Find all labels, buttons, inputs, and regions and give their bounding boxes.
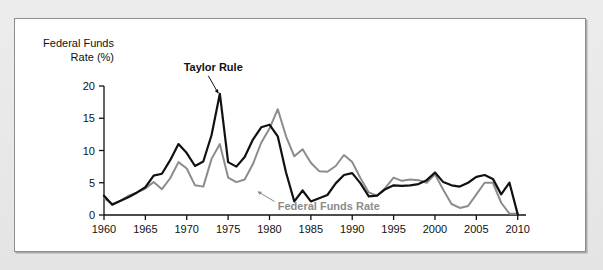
chart-panel: Federal Funds Rate (%) 05101520 19601965… <box>14 18 586 252</box>
y-axis-title-line2: Rate (%) <box>71 51 114 63</box>
x-axis-tick-label: 1975 <box>216 223 240 235</box>
x-axis-tick-label: 1990 <box>340 223 364 235</box>
x-axis-tick-label: 1985 <box>299 223 323 235</box>
x-axis-tick-label: 2000 <box>423 223 447 235</box>
series-line-taylor-rule <box>104 94 518 215</box>
x-axis-tick-label: 1965 <box>133 223 157 235</box>
y-axis-tick-label: 20 <box>83 80 95 92</box>
y-axis-tick-label: 15 <box>83 112 95 124</box>
figure-root: Federal Funds Rate (%) 05101520 19601965… <box>0 0 603 270</box>
y-axis-title-line1: Federal Funds <box>43 37 114 49</box>
y-axis-tick-label: 0 <box>89 209 95 221</box>
chart-series-group <box>104 94 518 215</box>
x-axis-tick-label: 2005 <box>464 223 488 235</box>
annotation-arrow <box>208 76 218 93</box>
x-axis-tick-label: 1980 <box>257 223 281 235</box>
y-axis-tick-label: 5 <box>89 177 95 189</box>
x-axis-tick-label: 2010 <box>505 223 529 235</box>
federal-funds-rate-chart: Federal Funds Rate (%) 05101520 19601965… <box>15 19 585 251</box>
annotation-arrow <box>258 192 275 202</box>
y-axis-title: Federal Funds Rate (%) <box>43 37 114 63</box>
chart-annotations: Taylor RuleFederal Funds Rate <box>184 61 380 212</box>
x-axis-tick-label: 1995 <box>381 223 405 235</box>
series-line-federal-funds-rate <box>104 109 518 213</box>
x-axis: 1960196519701975198019851990199520002005… <box>92 215 530 235</box>
annotation-label-federal-funds-rate: Federal Funds Rate <box>278 200 380 212</box>
x-axis-tick-label: 1960 <box>92 223 116 235</box>
annotation-label-taylor-rule: Taylor Rule <box>184 61 243 73</box>
y-axis-tick-label: 10 <box>83 145 95 157</box>
x-axis-tick-label: 1970 <box>175 223 199 235</box>
y-axis: 05101520 <box>83 80 104 221</box>
